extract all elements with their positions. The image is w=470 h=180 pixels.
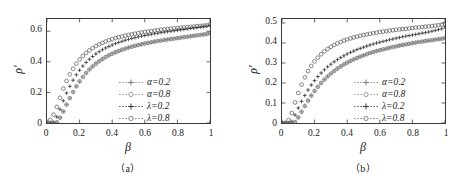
legend-item: α=0.8 (118, 88, 210, 100)
legend-label: α=0.8 (379, 89, 405, 100)
x-tick-label: 0.2 (308, 129, 320, 139)
circle-marker (118, 113, 144, 124)
x-tick-label: 1 (209, 129, 214, 139)
figure-container: 00.20.40.6 00.20.40.60.81 ρ′ β （a） α=0.2… (0, 0, 470, 180)
y-axis-label-b: ρ′ (246, 65, 261, 73)
legend-item: α=0.8 (353, 88, 445, 100)
x-tick-label: 0.8 (407, 129, 419, 139)
x-tick-label: 0.4 (106, 129, 118, 139)
x-tick-label: 0.4 (341, 129, 353, 139)
x-tick-label: 0.6 (374, 129, 386, 139)
plus-marker (353, 77, 379, 88)
x-tick-label: 0 (44, 129, 49, 139)
x-tick-label: 1 (444, 129, 449, 139)
legend-label: λ=0.8 (379, 113, 404, 124)
legend-item: λ=0.2 (118, 100, 210, 112)
x-tick-label: 0.6 (139, 129, 151, 139)
legend-label: λ=0.2 (144, 101, 169, 112)
circle-marker (353, 89, 379, 100)
panel-caption-a: （a） (115, 160, 141, 175)
x-tick-label: 0.2 (73, 129, 85, 139)
plus-marker (353, 101, 379, 112)
x-axis-label-b: β (360, 140, 366, 155)
circle-marker (353, 113, 379, 124)
legend-label: λ=0.8 (144, 113, 169, 124)
legend-item: α=0.2 (118, 76, 210, 88)
panel-caption-b: （b） (350, 160, 377, 175)
y-axis-label-a: ρ′ (11, 65, 26, 73)
legend-label: λ=0.2 (379, 101, 404, 112)
plus-marker (118, 101, 144, 112)
legend-item: λ=0.2 (353, 100, 445, 112)
legend-a: α=0.2α=0.8λ=0.2λ=0.8 (118, 76, 210, 124)
legend-item: λ=0.8 (353, 112, 445, 124)
panel-a: 00.20.40.6 00.20.40.60.81 ρ′ β （a） α=0.2… (0, 0, 235, 180)
legend-label: α=0.2 (379, 77, 405, 88)
legend-item: α=0.2 (353, 76, 445, 88)
panel-b: 00.10.20.30.40.5 00.20.40.60.81 ρ′ β （b）… (235, 0, 470, 180)
legend-item: λ=0.8 (118, 112, 210, 124)
x-axis-label-a: β (125, 140, 131, 155)
legend-label: α=0.2 (144, 77, 170, 88)
x-tick-label: 0 (279, 129, 284, 139)
circle-marker (118, 89, 144, 100)
legend-label: α=0.8 (144, 89, 170, 100)
x-tick-label: 0.8 (172, 129, 184, 139)
plus-marker (118, 77, 144, 88)
legend-b: α=0.2α=0.8λ=0.2λ=0.8 (353, 76, 445, 124)
